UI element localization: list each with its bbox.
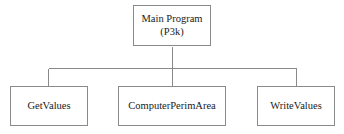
node-write-values-label: WriteValues (270, 100, 321, 112)
node-write-values: WriteValues (257, 86, 335, 126)
node-main-program: Main Program (P3k) (133, 5, 211, 46)
node-computer-perim-area-label: ComputerPerimArea (128, 100, 215, 112)
node-main-program-line2: (P3k) (160, 26, 183, 38)
node-computer-perim-area: ComputerPerimArea (118, 86, 226, 126)
node-get-values: GetValues (10, 86, 88, 126)
node-main-program-line1: Main Program (142, 13, 203, 25)
structure-chart-diagram: Main Program (P3k) GetValues ComputerPer… (0, 0, 344, 134)
node-get-values-label: GetValues (27, 100, 70, 112)
